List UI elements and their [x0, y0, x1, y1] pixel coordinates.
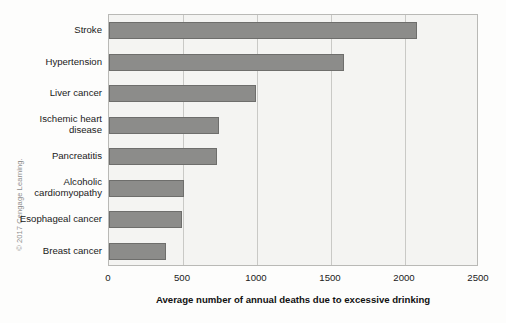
bar — [109, 243, 166, 260]
category-label: Pancreatitis — [10, 150, 102, 161]
bar — [109, 211, 182, 228]
x-tick-label: 2500 — [467, 272, 488, 283]
x-tick-label: 1000 — [245, 272, 266, 283]
category-label: Stroke — [10, 24, 102, 35]
bar-slot — [109, 15, 479, 47]
plot-area — [108, 14, 478, 266]
category-label: Hypertension — [10, 56, 102, 67]
category-label: Alcoholic cardiomyopathy — [10, 176, 102, 198]
bar — [109, 148, 217, 165]
x-tick-label: 2000 — [393, 272, 414, 283]
x-axis-title: Average number of annual deaths due to e… — [108, 294, 478, 305]
bar-slot — [109, 236, 479, 268]
bar — [109, 22, 417, 39]
category-label: Liver cancer — [10, 87, 102, 98]
bar — [109, 85, 256, 102]
category-label: Esophageal cancer — [10, 213, 102, 224]
x-tick-label: 500 — [174, 272, 190, 283]
bar-slot — [109, 110, 479, 142]
bar-slot — [109, 204, 479, 236]
bar-slot — [109, 173, 479, 205]
bar-slot — [109, 141, 479, 173]
bar-slot — [109, 47, 479, 79]
copyright-notice: © 2017 Cengage Learning. — [15, 150, 24, 260]
bar-slot — [109, 78, 479, 110]
bar-chart-figure: © 2017 Cengage Learning. StrokeHypertens… — [0, 0, 506, 323]
category-label: Breast cancer — [10, 245, 102, 256]
bar — [109, 180, 184, 197]
x-tick-label: 1500 — [319, 272, 340, 283]
x-tick-label: 0 — [105, 272, 110, 283]
bar-series — [109, 15, 477, 265]
category-label: Ischemic heart disease — [10, 113, 102, 135]
bar — [109, 117, 219, 134]
bar — [109, 54, 344, 71]
